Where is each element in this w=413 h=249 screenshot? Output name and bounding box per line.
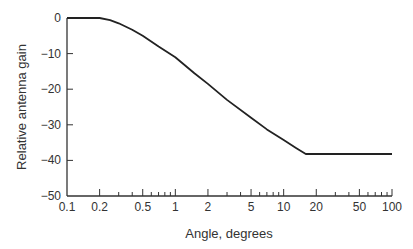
y-tick-label: −30	[41, 118, 62, 132]
y-tick-label: 0	[54, 11, 61, 25]
x-tick-label: 0.2	[91, 200, 108, 214]
y-tick-label: −40	[41, 153, 62, 167]
x-tick-label: 2	[205, 200, 212, 214]
x-tick-label: 5	[248, 200, 255, 214]
x-tick-label: 0.5	[134, 200, 151, 214]
x-tick-label: 0.1	[59, 200, 76, 214]
x-tick-label: 1	[172, 200, 179, 214]
x-tick-label: 50	[353, 200, 367, 214]
y-axis-title: Relative antenna gain	[14, 44, 29, 170]
x-tick-label: 20	[310, 200, 324, 214]
x-axis-title: Angle, degrees	[185, 226, 273, 241]
series-line	[67, 18, 392, 154]
x-axis: 0.10.20.5125102050100	[59, 189, 403, 214]
gain-curve	[67, 18, 392, 154]
x-tick-label: 10	[277, 200, 291, 214]
y-tick-label: −20	[41, 82, 62, 96]
antenna-gain-chart: 0−10−20−30−40−50 0.10.20.5125102050100 A…	[0, 0, 413, 249]
y-tick-label: −10	[41, 47, 62, 61]
y-axis: 0−10−20−30−40−50	[41, 11, 73, 203]
x-tick-label: 100	[382, 200, 402, 214]
